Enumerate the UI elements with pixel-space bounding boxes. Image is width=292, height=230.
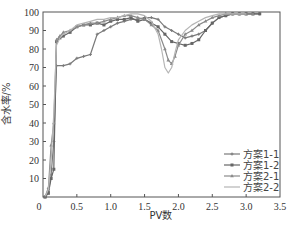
series-line xyxy=(45,14,246,197)
legend-entry: 方案1-2 xyxy=(224,159,279,171)
y-tick-label: 90 xyxy=(29,25,39,36)
x-tick-label: 0.5 xyxy=(71,201,84,212)
x-tick-label: 0 xyxy=(37,201,42,212)
series-line xyxy=(43,12,254,198)
y-tick-label: 100 xyxy=(24,7,39,18)
x-tick-label: 1.0 xyxy=(104,201,117,212)
y-tick-label: 60 xyxy=(29,81,39,92)
legend: 方案1-1方案1-2方案2-1方案2-2 xyxy=(224,148,279,193)
chart-canvas: 00.51.01.52.02.53.03.5 10203040506070809… xyxy=(0,0,292,230)
x-axis-title: PV数 xyxy=(150,209,173,221)
legend-label: 方案1-2 xyxy=(243,159,279,171)
x-tick-label: 2.0 xyxy=(172,201,185,212)
y-tick-label: 10 xyxy=(29,173,39,184)
y-tick-label: 20 xyxy=(29,155,39,166)
legend-entry: 方案1-1 xyxy=(224,148,279,160)
plot-lines xyxy=(43,12,261,199)
y-tick-label: 80 xyxy=(29,44,39,55)
legend-entry: 方案2-1 xyxy=(224,170,279,182)
series-line xyxy=(44,12,262,198)
x-tick-label: 3.0 xyxy=(240,201,253,212)
legend-label: 方案2-2 xyxy=(243,181,279,193)
legend-label: 方案1-1 xyxy=(243,148,279,160)
legend-label: 方案2-1 xyxy=(243,170,279,182)
legend-entry: 方案2-2 xyxy=(224,181,279,193)
x-tick-label: 2.5 xyxy=(206,201,219,212)
y-axis-title: 含水率/% xyxy=(0,83,12,126)
series-line xyxy=(44,12,262,198)
y-tick-label: 30 xyxy=(29,136,39,147)
y-tick-label: 50 xyxy=(29,99,39,110)
y-tick-label: 40 xyxy=(29,118,39,129)
y-tick-label: 70 xyxy=(29,62,39,73)
x-tick-label: 3.5 xyxy=(274,201,287,212)
